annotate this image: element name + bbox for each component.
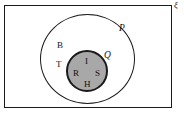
set-label-p: P <box>119 24 125 34</box>
element-label-r: R <box>73 69 79 78</box>
element-label-b: B <box>57 41 63 50</box>
element-label-s: S <box>95 69 100 78</box>
element-label-h: H <box>84 80 91 89</box>
element-label-i: I <box>85 57 88 66</box>
venn-diagram-canvas: ξ P Q B T I R S H <box>0 0 184 115</box>
element-label-t: T <box>56 60 62 69</box>
universal-set-symbol: ξ <box>174 1 178 10</box>
set-label-q: Q <box>104 51 111 61</box>
